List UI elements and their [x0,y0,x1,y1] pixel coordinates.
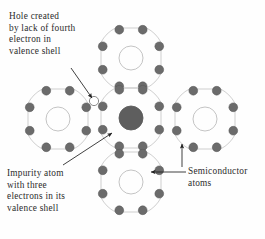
electron-dot [155,42,164,51]
electron-dot [25,126,34,135]
electron-dot [155,125,164,134]
valence-shell-ring [101,152,161,212]
atom-impurity [98,85,163,150]
electron-dot [115,149,124,158]
arrow-hole [71,68,92,98]
electron-dot [25,103,34,112]
electron-dot [155,166,164,175]
electron-dot [189,143,198,152]
nucleus-circle [46,107,70,131]
electron-dot [98,42,107,51]
electron-dot [82,126,91,135]
electron-dot [42,143,51,152]
electron-dot [42,86,51,95]
impurity-label-line-3: electrons in its [7,191,65,203]
hole-circle [89,96,98,105]
impurity-label-line-1: Impurity atom [7,168,65,180]
electron-dot [115,25,124,34]
electron-dot [138,206,147,215]
semiconductor-label: Semiconductor atoms [188,166,248,189]
valence-shell-ring [175,89,235,149]
electron-dot [65,143,74,152]
hole-label-line-3: electron in [9,34,75,46]
nucleus-circle [193,107,217,131]
electron-dot [115,85,124,94]
electron-dot [98,166,107,175]
electron-dot [98,102,107,111]
electron-dot [82,103,91,112]
electron-dot [98,189,107,198]
hole-label-line-1: Hole created [9,11,75,23]
electron-dot [115,206,124,215]
electron-dot [172,103,181,112]
hole-label-line-4: valence shell [9,46,75,58]
nucleus-circle [119,46,143,70]
atom-semiconductor [98,25,163,90]
electron-dot [155,102,164,111]
electron-dot [229,103,238,112]
semiconductor-label-line-2: atoms [188,178,248,190]
electron-dot [138,149,147,158]
impurity-label-line-2: with three [7,180,65,192]
atom-semiconductor [172,86,237,151]
semiconductor-label-line-1: Semiconductor [188,166,248,178]
hole-layer [89,96,98,105]
electron-dot [155,189,164,198]
electron-dot [138,85,147,94]
electron-dot [172,126,181,135]
electron-dot [98,125,107,134]
impurity-nucleus [119,106,143,130]
electron-dot [155,65,164,74]
electron-dot [212,143,221,152]
electron-dot [229,126,238,135]
impurity-label-line-4: valence shell [7,203,65,215]
valence-shell-ring [101,28,161,88]
electron-dot [138,25,147,34]
hole-label-line-2: by lack of fourth [9,23,75,35]
hole-label: Hole created by lack of fourth electron … [9,11,75,57]
nucleus-circle [119,170,143,194]
atom-semiconductor [25,86,90,151]
electron-dot [98,65,107,74]
semiconductor-doping-figure: Hole created by lack of fourth electron … [0,0,265,239]
valence-shell-ring [28,89,88,149]
electron-dot [65,86,74,95]
atom-semiconductor [98,149,163,214]
electron-dot [212,86,221,95]
impurity-label: Impurity atom with three electrons in it… [7,168,65,214]
electron-dot [189,86,198,95]
